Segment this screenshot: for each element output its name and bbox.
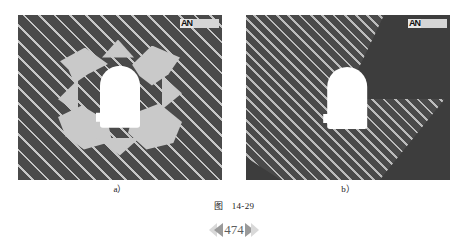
figure-panel-a: AN — [18, 15, 222, 180]
page-footer: 474 — [0, 219, 468, 241]
figure-panel-b: AN — [246, 15, 450, 180]
figure-caption-label: 图 — [214, 201, 223, 211]
contour-plot-b: AN — [246, 15, 450, 180]
plastic-zone-lobe-top — [98, 40, 138, 58]
figure-caption: 图14-29 — [0, 199, 468, 212]
tunnel-notch-a — [96, 112, 102, 121]
chevron-right-outer-icon — [251, 223, 259, 237]
panel-a-label: a） — [18, 182, 222, 195]
ansys-watermark-a: AN — [180, 18, 219, 28]
plastic-zone-lobe-left — [58, 80, 78, 114]
figure-area: AN a） AN b） — [0, 0, 468, 196]
chevron-left-inner-icon — [214, 223, 223, 237]
panel-b-label: b） — [246, 182, 450, 195]
ansys-watermark-b: AN — [408, 18, 447, 28]
plastic-zone-lobe-bottom — [96, 138, 140, 156]
tunnel-opening-a — [100, 65, 140, 127]
ansys-logo-icon: AN — [180, 19, 193, 28]
plastic-zone-lobe-right — [162, 76, 182, 110]
tunnel-opening-b — [327, 67, 367, 129]
contour-plot-a: AN — [18, 15, 222, 180]
figure-caption-number: 14-29 — [232, 201, 255, 211]
tunnel-notch-b — [323, 114, 329, 123]
ansys-logo-icon: AN — [408, 19, 421, 28]
page-number: 474 — [223, 222, 245, 238]
watermark-bar-a — [193, 19, 219, 28]
watermark-bar-b — [421, 19, 447, 28]
